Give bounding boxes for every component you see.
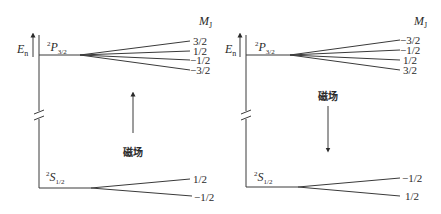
energy-axis-label: En <box>16 42 28 58</box>
mj-label: 1/2 <box>405 190 419 202</box>
diagram-field-down: En MJ 2P3/2 −3/2 −1/2 1/2 3/2 磁场 2S1/2 −… <box>224 14 427 202</box>
upper-level-term: 2P3/2 <box>255 40 275 56</box>
mj-label: 1/2 <box>193 173 207 185</box>
upper-level-lines <box>246 40 400 70</box>
lower-level-term: 2S1/2 <box>254 170 273 186</box>
mj-header: MJ <box>198 14 212 30</box>
field-label: 磁场 <box>318 90 338 102</box>
energy-axis <box>34 35 44 188</box>
mj-label: 3/2 <box>403 64 417 76</box>
diagram-field-up: En MJ 2P3/2 3/2 1/2 −1/2 −3/2 磁场 2S1/2 1… <box>16 14 214 203</box>
upper-level-term: 2P3/2 <box>47 40 67 56</box>
mj-label: −1/2 <box>402 172 422 184</box>
upper-level-lines <box>39 41 190 70</box>
mj-header: MJ <box>413 14 427 30</box>
field-label: 磁场 <box>123 146 143 158</box>
mj-label: −1/2 <box>194 191 214 203</box>
energy-axis <box>241 35 251 187</box>
lower-level-term: 2S1/2 <box>46 170 65 186</box>
energy-axis-label: En <box>224 42 236 58</box>
zeeman-diagram-canvas: En MJ 2P3/2 3/2 1/2 −1/2 −3/2 磁场 2S1/2 1… <box>0 0 441 214</box>
mj-label: −3/2 <box>190 64 210 76</box>
